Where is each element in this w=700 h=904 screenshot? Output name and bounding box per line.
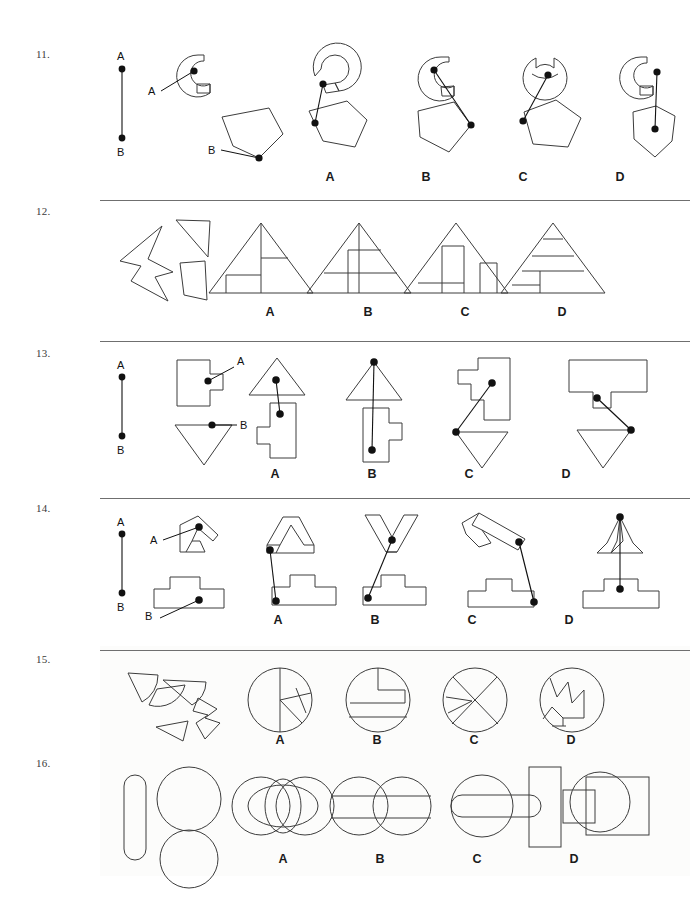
option-figure-15-c [443, 668, 507, 732]
option-label-11-c[interactable]: C [508, 170, 538, 184]
option-label-14-d[interactable]: D [554, 613, 584, 627]
separator-rule-3 [100, 498, 690, 499]
option-label-11-d[interactable]: D [605, 170, 635, 184]
option-figure-14-b [363, 515, 426, 605]
option-figure-13-c [452, 358, 510, 468]
point-label-a-14: A [117, 516, 125, 528]
option-figure-11-c [519, 58, 581, 147]
question-number-12: 12. [36, 205, 50, 217]
stem-shapes-11: A B [148, 55, 283, 162]
svg-text:B: B [208, 144, 215, 156]
option-figure-11-a [309, 43, 367, 147]
option-label-16-c[interactable]: C [462, 852, 492, 866]
option-figure-11-d [620, 57, 675, 157]
option-figure-14-d [583, 513, 659, 608]
option-label-12-d[interactable]: D [547, 305, 577, 319]
option-figure-11-b [418, 57, 475, 152]
option-figure-16-d [563, 772, 649, 835]
option-figure-13-d [569, 360, 647, 468]
question-11-figures: A B A B [100, 44, 690, 189]
svg-text:A: A [150, 534, 158, 546]
question-14-figures: A B A B [100, 505, 690, 625]
option-label-11-a[interactable]: A [315, 170, 345, 184]
option-label-15-a[interactable]: A [265, 733, 295, 747]
option-label-13-c[interactable]: C [454, 467, 484, 481]
question-number-13: 13. [36, 347, 50, 359]
option-label-13-d[interactable]: D [551, 467, 581, 481]
option-label-16-a[interactable]: A [268, 852, 298, 866]
point-label-a-13: A [117, 359, 125, 371]
question-13-figures: A B A B [100, 350, 690, 475]
option-figure-12-d [501, 223, 605, 293]
point-label-b-11: B [117, 146, 124, 158]
option-figure-12-c [404, 223, 508, 293]
option-label-13-b[interactable]: B [357, 467, 387, 481]
option-label-13-a[interactable]: A [260, 467, 290, 481]
worksheet-page: 11. A B A B [0, 0, 700, 904]
stem-shapes-16 [124, 767, 221, 888]
question-number-16: 16. [36, 757, 50, 769]
point-label-b-14: B [117, 601, 124, 613]
svg-text:B: B [145, 610, 152, 622]
option-label-15-c[interactable]: C [459, 733, 489, 747]
option-figure-16-c [451, 767, 561, 847]
option-label-12-c[interactable]: C [450, 305, 480, 319]
option-label-14-b[interactable]: B [360, 613, 390, 627]
stem-shapes-12 [120, 220, 210, 301]
option-figure-13-a [249, 358, 305, 458]
option-label-14-c[interactable]: C [457, 613, 487, 627]
option-label-15-d[interactable]: D [556, 733, 586, 747]
option-figure-13-b [346, 358, 402, 462]
point-label-b-13: B [117, 444, 124, 456]
reference-segment-11 [119, 66, 126, 142]
svg-text:A: A [148, 85, 156, 97]
point-label-a-11: A [117, 50, 125, 62]
question-number-15: 15. [36, 653, 50, 665]
option-figure-16-b [330, 777, 431, 835]
option-label-14-a[interactable]: A [263, 613, 293, 627]
option-figure-12-b [307, 223, 411, 293]
option-figure-12-a [209, 223, 313, 293]
stem-shapes-13: A B [175, 355, 247, 465]
option-label-12-b[interactable]: B [353, 305, 383, 319]
reference-segment-14 [119, 531, 126, 597]
question-12-figures [100, 215, 690, 315]
question-number-11: 11. [36, 48, 50, 60]
option-figure-15-a [248, 668, 312, 732]
option-label-11-b[interactable]: B [411, 170, 441, 184]
option-label-16-d[interactable]: D [559, 852, 589, 866]
question-16-figures [100, 760, 690, 865]
option-label-12-a[interactable]: A [255, 305, 285, 319]
option-label-15-b[interactable]: B [362, 733, 392, 747]
reference-segment-13 [119, 374, 126, 440]
option-figure-16-a [232, 777, 334, 835]
separator-rule-2 [100, 341, 690, 342]
separator-rule-1 [100, 200, 690, 201]
question-15-figures [100, 655, 690, 750]
option-figure-14-c [462, 513, 538, 607]
option-figure-14-a [266, 517, 336, 605]
separator-rule-4 [100, 650, 690, 651]
stem-shapes-14: A B [145, 516, 224, 622]
question-number-14: 14. [36, 502, 50, 514]
svg-text:A: A [237, 355, 245, 367]
option-figure-15-b [346, 668, 410, 732]
svg-text:B: B [240, 419, 247, 431]
stem-shapes-15 [128, 673, 220, 741]
option-label-16-b[interactable]: B [365, 852, 395, 866]
option-figure-15-d [540, 668, 604, 732]
